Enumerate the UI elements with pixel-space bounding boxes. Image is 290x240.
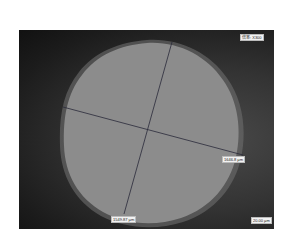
diameter-1-label: 1646.8 µm [222,156,245,163]
microscope-image: 倍率: X300 1646.8 µm 1549.87 µm 20.00 µm [19,30,274,229]
particle [64,43,239,223]
scale-bar-label: 20.00 µm [251,217,272,224]
particle-scene [19,30,274,229]
diameter-2-label: 1549.87 µm [111,216,136,223]
magnification-label: 倍率: X300 [240,34,264,41]
